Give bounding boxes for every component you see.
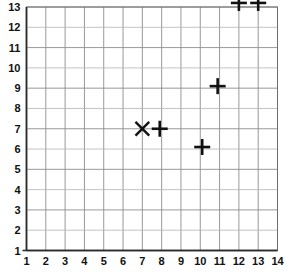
y-tick-label: 10 — [8, 62, 20, 74]
x-tick-label: 5 — [101, 255, 107, 267]
y-tick-label: 3 — [14, 204, 20, 216]
x-tick-label: 12 — [233, 255, 245, 267]
y-tick-label: 4 — [14, 184, 21, 196]
y-tick-label: 6 — [14, 143, 20, 155]
scatter-plot-figure: 1234567891011121314 12345678910111213 — [0, 0, 285, 272]
x-tick-label: 3 — [62, 255, 68, 267]
x-tick-label: 4 — [81, 255, 88, 267]
y-tick-label: 7 — [14, 123, 20, 135]
x-tick-label: 11 — [214, 255, 226, 267]
x-tick-label: 13 — [252, 255, 264, 267]
y-tick-label: 8 — [14, 102, 20, 114]
y-tick-label: 1 — [14, 245, 20, 257]
x-tick-label: 10 — [194, 255, 206, 267]
plot-canvas: 1234567891011121314 12345678910111213 — [0, 0, 285, 272]
y-tick-label: 2 — [14, 224, 20, 236]
x-tick-label: 6 — [120, 255, 126, 267]
y-tick-label: 9 — [14, 82, 20, 94]
y-tick-label: 13 — [8, 1, 20, 13]
x-tick-label: 2 — [43, 255, 49, 267]
x-tick-label: 9 — [178, 255, 184, 267]
y-tick-label: 5 — [14, 163, 20, 175]
x-tick-label: 7 — [139, 255, 145, 267]
y-tick-label: 12 — [8, 21, 20, 33]
x-tick-label: 1 — [23, 255, 29, 267]
x-tick-label: 8 — [159, 255, 165, 267]
y-tick-label: 11 — [9, 42, 21, 54]
x-tick-label: 14 — [271, 255, 284, 267]
